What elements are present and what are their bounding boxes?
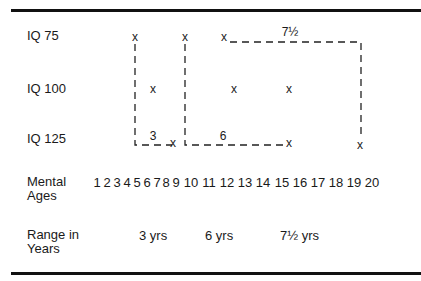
age-19: 19 — [347, 176, 361, 190]
age-14: 14 — [256, 176, 270, 190]
point-iq75-age9: x — [182, 31, 188, 43]
range-7half-yrs: 7½ yrs — [280, 229, 319, 243]
age-8: 8 — [162, 176, 169, 190]
point-iq100-age11: x — [231, 83, 237, 95]
age-12: 12 — [220, 176, 234, 190]
bottom-rule — [11, 272, 421, 275]
bracket-7half-yrs — [230, 42, 361, 138]
segment-label-3: 3 — [149, 130, 158, 142]
segment-label-6: 6 — [219, 130, 228, 142]
age-4: 4 — [123, 176, 130, 190]
age-2: 2 — [103, 176, 110, 190]
point-iq125-age8: x — [170, 137, 176, 149]
age-18: 18 — [329, 176, 343, 190]
point-iq75-age5: x — [132, 31, 138, 43]
age-9: 9 — [172, 176, 179, 190]
point-iq100-age15: x — [286, 83, 292, 95]
point-iq100-age6: x — [150, 83, 156, 95]
age-3: 3 — [113, 176, 120, 190]
age-1: 1 — [93, 176, 100, 190]
age-15: 15 — [275, 176, 289, 190]
age-17: 17 — [311, 176, 325, 190]
age-10: 10 — [184, 176, 198, 190]
age-11: 11 — [202, 176, 216, 190]
range-3yrs: 3 yrs — [139, 229, 167, 243]
point-iq125-age15: x — [286, 137, 292, 149]
age-20: 20 — [365, 176, 379, 190]
age-13: 13 — [238, 176, 252, 190]
point-iq75-age12: x — [221, 31, 227, 43]
range-6yrs: 6 yrs — [205, 229, 233, 243]
age-5: 5 — [133, 176, 140, 190]
segment-label-7half: 7½ — [281, 26, 300, 38]
point-iq125-age19: x — [357, 139, 363, 151]
age-16: 16 — [293, 176, 307, 190]
age-7: 7 — [153, 176, 160, 190]
age-6: 6 — [143, 176, 150, 190]
